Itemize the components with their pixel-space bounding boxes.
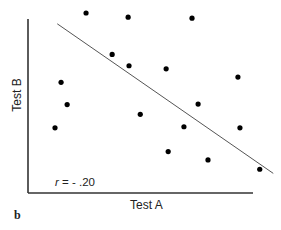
axes (28, 19, 253, 193)
y-axis-label: Test B (10, 72, 24, 118)
scatter-plot (0, 0, 281, 230)
data-point (189, 16, 194, 21)
data-point (257, 167, 262, 172)
regression-line (57, 24, 273, 174)
data-point (58, 80, 63, 85)
data-point (65, 102, 70, 107)
data-point (126, 15, 131, 20)
data-point (166, 149, 171, 154)
data-point (235, 74, 240, 79)
data-point (196, 101, 201, 106)
data-point (164, 66, 169, 71)
data-point (52, 125, 57, 130)
correlation-value: = - .20 (62, 176, 95, 188)
data-point (138, 112, 143, 117)
data-point (83, 10, 88, 15)
data-point (237, 125, 242, 130)
correlation-symbol: r (55, 176, 59, 188)
trend-line (57, 24, 273, 174)
data-points (52, 10, 262, 171)
data-point (205, 157, 210, 162)
panel-label: b (14, 208, 21, 223)
data-point (126, 63, 131, 68)
data-point (181, 124, 186, 129)
data-point (110, 52, 115, 57)
x-axis-label: Test A (130, 198, 163, 212)
correlation-annotation: r = - .20 (55, 176, 95, 188)
